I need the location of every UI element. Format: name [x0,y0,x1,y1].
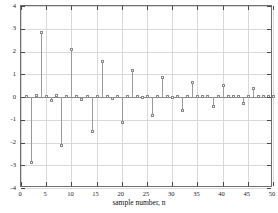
data-point-marker [40,31,43,34]
stem-line [71,50,72,97]
data-point-marker [111,97,114,100]
stem-line [41,33,42,97]
y-tick-label: 4 [0,2,16,9]
x-axis-tick [21,182,22,186]
y-tick-label: 2 [0,47,16,54]
y-axis-tick [267,120,271,121]
plot-area [20,5,272,187]
x-axis-tick [46,182,47,186]
x-axis-tick [248,6,249,10]
x-axis-tick [223,182,224,186]
y-tick-label: 1 [0,70,16,77]
x-tick-label: 40 [212,190,232,197]
data-point-marker [262,95,265,98]
x-axis-tick [97,182,98,186]
x-tick-label: 0 [10,190,30,197]
stem-line [92,97,93,132]
gridline-horizontal [21,120,271,121]
x-tick-label: 10 [60,190,80,197]
data-point-marker [186,95,189,98]
x-tick-label: 25 [136,190,156,197]
gridline-horizontal [21,143,271,144]
data-point-marker [146,95,149,98]
data-point-marker [25,95,28,98]
x-tick-label: 15 [86,190,106,197]
stem-line [223,86,224,97]
x-axis-tick [147,6,148,10]
data-point-marker [91,130,94,133]
data-point-marker [65,95,68,98]
data-point-marker [237,95,240,98]
x-tick-label: 20 [111,190,131,197]
x-axis-tick [97,6,98,10]
y-axis-tick [267,143,271,144]
data-point-marker [101,60,104,63]
x-axis-title: sample number, n [0,198,278,207]
stem-line [192,83,193,97]
stem-line [162,78,163,97]
y-axis-tick [21,120,25,121]
data-point-marker [232,95,235,98]
gridline-horizontal [21,165,271,166]
data-point-marker [96,95,99,98]
x-tick-label: 30 [161,190,181,197]
data-point-marker [222,84,225,87]
x-axis-tick [248,182,249,186]
data-point-marker [126,95,129,98]
data-point-marker [75,95,78,98]
data-point-marker [80,98,83,101]
y-axis-tick [267,74,271,75]
data-point-marker [86,95,89,98]
stem-line [31,97,32,163]
y-tick-label: 0 [0,93,16,100]
data-point-marker [212,105,215,108]
x-axis-tick [71,182,72,186]
data-point-marker [60,144,63,147]
data-point-marker [156,95,159,98]
data-point-marker [151,114,154,117]
gridline-horizontal [21,52,271,53]
y-axis-tick [21,188,25,189]
y-axis-tick [21,29,25,30]
y-axis-tick [21,52,25,53]
x-axis-tick [197,182,198,186]
x-tick-label: 45 [237,190,257,197]
x-axis-tick [46,6,47,10]
data-point-marker [121,121,124,124]
stem-line [122,97,123,123]
stem-line [253,89,254,97]
data-point-marker [196,95,199,98]
y-axis-tick [21,143,25,144]
x-axis-tick [197,6,198,10]
data-point-marker [252,87,255,90]
data-point-marker [55,94,58,97]
data-point-marker [70,48,73,51]
data-point-marker [247,95,250,98]
gridline-horizontal [21,29,271,30]
data-point-marker [191,81,194,84]
x-axis-tick [223,6,224,10]
y-axis-tick [267,97,271,98]
data-point-marker [116,95,119,98]
data-point-marker [201,95,204,98]
y-axis-tick [267,6,271,7]
stem-plot-figure: 43210-1-2-3-4 05101520253035404550 sampl… [0,0,278,213]
x-axis-tick [273,6,274,10]
gridline-horizontal [21,6,271,7]
gridline-vertical [122,6,123,186]
data-point-marker [272,95,275,98]
x-axis-tick [71,6,72,10]
gridline-horizontal [21,188,271,189]
y-axis-tick [21,74,25,75]
y-tick-label: 3 [0,24,16,31]
data-point-marker [166,95,169,98]
x-axis-tick [172,182,173,186]
y-axis-tick [267,188,271,189]
stem-line [102,62,103,97]
x-axis-tick [273,182,274,186]
y-axis-tick [267,29,271,30]
data-point-marker [131,69,134,72]
data-point-marker [181,109,184,112]
x-axis-tick [21,6,22,10]
data-point-marker [161,76,164,79]
